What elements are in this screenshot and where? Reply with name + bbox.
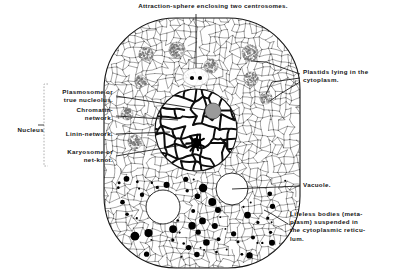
label-lifeless-bodies: Lifeless bodies (meta- plasm) suspended … [290, 210, 402, 243]
label-chromatin-network: Chromatin- network. [41, 106, 113, 122]
label-vacuole: Vacuole. [303, 181, 399, 189]
label-plastids: Plastids lying in the cytoplasm. [303, 68, 401, 84]
label-attraction-sphere: Attraction-sphere enclosing two centroso… [113, 2, 313, 10]
plasmosome-nucleolus [205, 103, 221, 119]
label-nucleus: Nucleus [2, 126, 44, 134]
attraction-sphere [183, 68, 209, 86]
label-karyosome: Karyosome or net-knot. [41, 148, 113, 164]
label-linin-network: Linin-network. [41, 130, 113, 138]
label-plasmosome: Plasmosome or true nucleolus. [41, 88, 113, 104]
